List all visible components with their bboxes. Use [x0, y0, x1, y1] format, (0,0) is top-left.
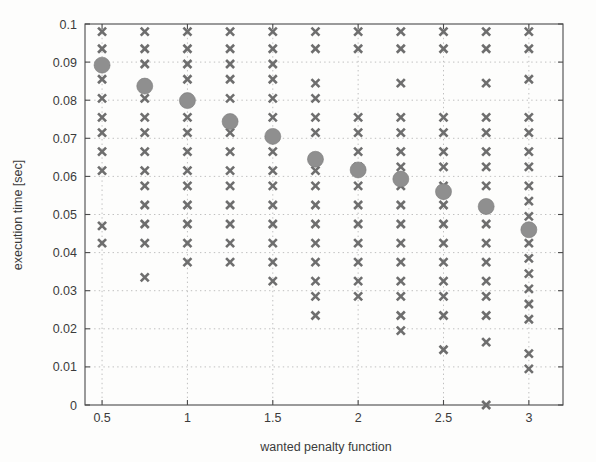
figure-container: 0.511.522.53 00.010.020.030.040.050.060.… [0, 0, 596, 462]
sample-marker [311, 129, 319, 137]
mean-marker [137, 78, 153, 94]
sample-marker [482, 220, 490, 228]
sample-marker [525, 75, 533, 83]
sample-marker [269, 201, 277, 209]
sample-marker [482, 79, 490, 87]
sample-marker [440, 292, 448, 300]
sample-marker [311, 311, 319, 319]
mean-marker [478, 198, 494, 214]
sample-marker [397, 311, 405, 319]
y-tick-label: 0.04 [53, 246, 77, 260]
sample-marker [141, 28, 149, 36]
y-tick-label: 0.07 [53, 132, 77, 146]
sample-marker [397, 148, 405, 156]
sample-marker [482, 311, 490, 319]
x-tick-label: 0.5 [93, 411, 110, 425]
sample-marker [397, 327, 405, 335]
x-tick-label: 1 [184, 411, 191, 425]
sample-marker [397, 28, 405, 36]
sample-marker [269, 182, 277, 190]
y-tick-label: 0.1 [60, 18, 77, 32]
sample-marker [141, 129, 149, 137]
sample-marker [482, 113, 490, 121]
sample-marker [525, 113, 533, 121]
x-tick-label: 2 [355, 411, 362, 425]
mean-marker [350, 162, 366, 178]
sample-marker [269, 45, 277, 53]
sample-marker [98, 75, 106, 83]
sample-markers [98, 28, 533, 409]
sample-marker [311, 182, 319, 190]
scatter-plot: 0.511.522.53 00.010.020.030.040.050.060.… [0, 0, 596, 462]
sample-marker [525, 270, 533, 278]
sample-marker [397, 163, 405, 171]
sample-marker [440, 311, 448, 319]
y-tick-label: 0.06 [53, 170, 77, 184]
sample-marker [397, 45, 405, 53]
gridlines [85, 24, 563, 405]
sample-marker [482, 28, 490, 36]
mean-marker [179, 93, 195, 109]
sample-marker [525, 163, 533, 171]
sample-marker [311, 113, 319, 121]
sample-marker [98, 113, 106, 121]
sample-marker [141, 182, 149, 190]
sample-marker [269, 94, 277, 102]
sample-marker [482, 182, 490, 190]
y-tick-label: 0.01 [53, 360, 77, 374]
sample-marker [311, 239, 319, 247]
sample-marker [525, 254, 533, 262]
sample-marker [482, 148, 490, 156]
sample-marker [482, 258, 490, 266]
x-tick-label: 2.5 [435, 411, 452, 425]
y-tick-label: 0 [70, 399, 77, 413]
y-axis-label: execution time [sec] [11, 160, 25, 270]
sample-marker [525, 45, 533, 53]
sample-marker [482, 239, 490, 247]
plot-frame [85, 24, 563, 405]
sample-marker [141, 113, 149, 121]
mean-marker [436, 184, 452, 200]
sample-marker [269, 75, 277, 83]
sample-marker [226, 60, 234, 68]
sample-marker [311, 201, 319, 209]
sample-marker [226, 239, 234, 247]
sample-marker [354, 292, 362, 300]
sample-marker [482, 338, 490, 346]
mean-marker [265, 128, 281, 144]
mean-marker [307, 151, 323, 167]
sample-marker [141, 60, 149, 68]
sample-marker [226, 258, 234, 266]
sample-marker [311, 45, 319, 53]
y-tick-label: 0.05 [53, 208, 77, 222]
sample-marker [397, 201, 405, 209]
sample-marker [397, 220, 405, 228]
sample-marker [354, 201, 362, 209]
sample-marker [226, 220, 234, 228]
y-tick-labels: 00.010.020.030.040.050.060.070.080.090.1 [53, 18, 77, 413]
sample-marker [525, 315, 533, 323]
sample-marker [397, 129, 405, 137]
sample-marker [397, 258, 405, 266]
sample-marker [397, 292, 405, 300]
sample-marker [141, 167, 149, 175]
sample-marker [311, 28, 319, 36]
sample-marker [226, 167, 234, 175]
sample-marker [440, 201, 448, 209]
y-tick-label: 0.02 [53, 322, 77, 336]
sample-marker [311, 167, 319, 175]
sample-marker [226, 182, 234, 190]
sample-marker [226, 45, 234, 53]
sample-marker [141, 148, 149, 156]
sample-marker [440, 163, 448, 171]
sample-marker [482, 45, 490, 53]
y-tick-label: 0.09 [53, 56, 77, 70]
sample-marker [440, 45, 448, 53]
sample-marker [397, 113, 405, 121]
sample-marker [354, 45, 362, 53]
sample-marker [354, 182, 362, 190]
sample-marker [440, 113, 448, 121]
sample-marker [482, 292, 490, 300]
sample-marker [98, 94, 106, 102]
sample-marker [141, 239, 149, 247]
